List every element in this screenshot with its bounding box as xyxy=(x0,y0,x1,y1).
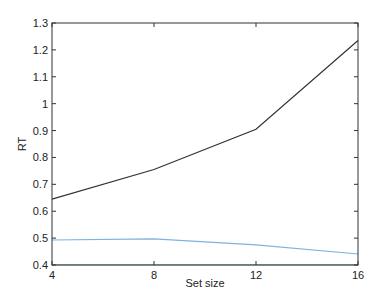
x-tick-label: 4 xyxy=(49,269,55,281)
y-tick-label: 1.2 xyxy=(33,44,48,56)
line-chart: 0.40.50.60.70.80.911.11.21.3 481216 Set … xyxy=(0,0,377,301)
x-tick-label: 8 xyxy=(151,269,157,281)
x-tick-label: 12 xyxy=(250,269,262,281)
x-tick-label: 16 xyxy=(352,269,364,281)
plot-area xyxy=(52,23,358,265)
y-tick-label: 0.9 xyxy=(33,125,48,137)
y-tick-label: 0.8 xyxy=(33,151,48,163)
y-tick-label: 1.1 xyxy=(33,71,48,83)
y-tick-label: 1 xyxy=(42,98,48,110)
y-tick-label: 0.6 xyxy=(33,205,48,217)
y-tick-label: 1.3 xyxy=(33,17,48,29)
y-tick-label: 0.7 xyxy=(33,178,48,190)
y-tick-label: 0.5 xyxy=(33,232,48,244)
y-tick-label: 0.4 xyxy=(33,259,48,271)
y-axis-label: RT xyxy=(16,136,28,151)
x-axis-label: Set size xyxy=(185,277,224,289)
